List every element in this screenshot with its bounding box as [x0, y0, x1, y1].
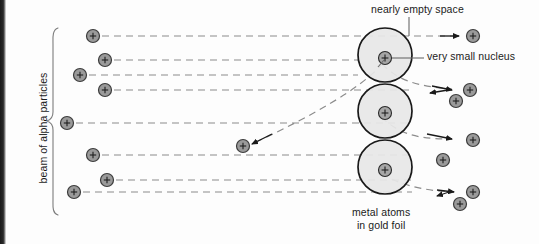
- alpha-out-deflected-lower-a: [467, 186, 480, 199]
- diagram-canvas: nearly empty space very small nucleus me…: [0, 0, 539, 244]
- alpha-in-5: [61, 117, 74, 130]
- alpha-in-8: [68, 186, 81, 199]
- arrow-scatter-upper-a: [432, 86, 452, 90]
- label-metal-atoms-line2: in gold foil: [352, 219, 410, 232]
- label-beam-wrap: beam of alpha particles: [22, 10, 44, 234]
- label-nearly-empty-space: nearly empty space: [371, 3, 464, 15]
- alpha-in-3: [74, 69, 87, 82]
- scatter-arrowheads-group: [252, 86, 454, 196]
- arrow-backscatter: [252, 134, 272, 144]
- alpha-in-7: [101, 174, 114, 187]
- incoming-alpha-particles-group: [61, 30, 114, 199]
- arrow-scatter-upper-b: [430, 90, 448, 93]
- atom-bottom: [358, 140, 412, 194]
- alpha-in-4: [99, 84, 112, 97]
- scatter-paths-group: [254, 63, 452, 192]
- gold-foil-atoms-group: [358, 28, 412, 194]
- alpha-out-undeflected-top: [467, 30, 480, 43]
- alpha-out-deflected-mid-a: [467, 134, 480, 147]
- alpha-in-1: [87, 30, 100, 43]
- atom-top: [358, 28, 412, 82]
- alpha-out-deflected-upper-b: [450, 95, 463, 108]
- alpha-out-deflected-lower-b: [454, 198, 467, 211]
- alpha-in-6: [87, 149, 100, 162]
- rutherford-scattering-svg: [0, 0, 539, 244]
- label-metal-atoms: metal atoms in gold foil: [352, 206, 410, 232]
- alpha-in-2: [99, 54, 112, 67]
- alpha-out-deflected-upper-a: [464, 84, 477, 97]
- atom-middle: [358, 84, 412, 138]
- label-beam-of-alpha-particles: beam of alpha particles: [37, 63, 49, 193]
- label-metal-atoms-line1: metal atoms: [352, 206, 410, 219]
- alpha-out-deflected-mid-b: [437, 154, 450, 167]
- alpha-backscattered: [237, 140, 250, 153]
- label-very-small-nucleus: very small nucleus: [427, 50, 515, 62]
